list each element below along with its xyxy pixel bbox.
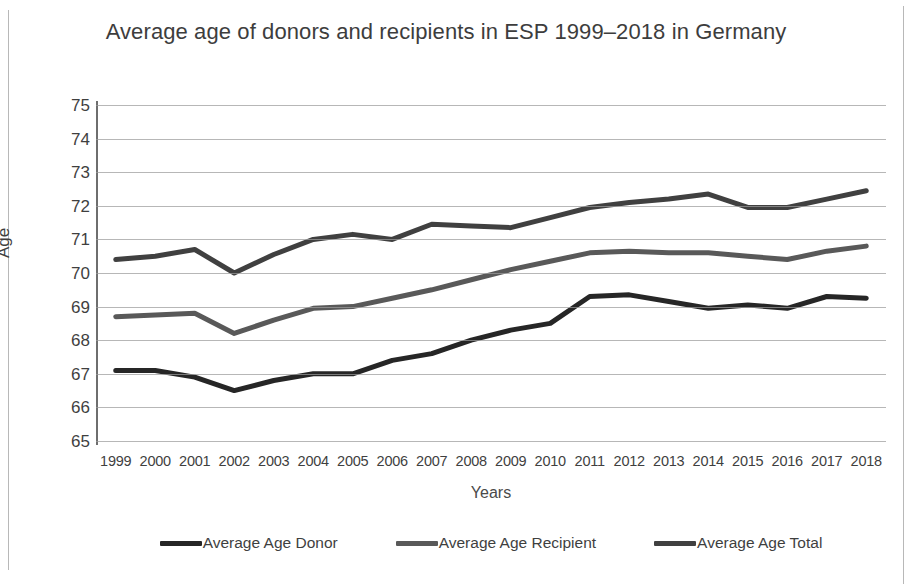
chart-legend: Average Age DonorAverage Age RecipientAv… — [96, 534, 886, 552]
x-tick-label: 2017 — [805, 452, 849, 471]
y-tick-label: 73 — [56, 164, 90, 181]
y-tick-label: 68 — [56, 332, 90, 349]
y-tick-label: 66 — [56, 399, 90, 416]
x-tick-label: 2015 — [726, 452, 770, 471]
gridline — [96, 273, 886, 274]
gridline — [96, 239, 886, 240]
x-tick-label: 2006 — [370, 452, 414, 471]
line-chart: Average age of donors and recipients in … — [0, 0, 918, 588]
gridline — [96, 340, 886, 341]
y-tick-label: 71 — [56, 231, 90, 248]
series-line — [116, 295, 867, 391]
legend-swatch-icon — [396, 541, 438, 546]
y-tick-label: 67 — [56, 366, 90, 383]
y-axis-title: Age — [0, 228, 14, 258]
y-tick-label: 75 — [56, 97, 90, 114]
gridline — [96, 206, 886, 207]
x-tick-label: 2013 — [647, 452, 691, 471]
gridline — [96, 172, 886, 173]
y-tick-label: 74 — [56, 131, 90, 148]
x-tick-label: 2003 — [252, 452, 296, 471]
y-tick-label: 69 — [56, 299, 90, 316]
x-axis-title: Years — [96, 484, 886, 502]
x-tick-label: 2016 — [765, 452, 809, 471]
y-tick-label: 65 — [56, 433, 90, 450]
series-line — [116, 191, 867, 273]
x-tick-label: 2002 — [212, 452, 256, 471]
x-tick-label: 2014 — [686, 452, 730, 471]
y-tick-label: 70 — [56, 265, 90, 282]
legend-label: Average Age Donor — [203, 534, 338, 552]
legend-item[interactable]: Average Age Total — [654, 534, 822, 552]
legend-label: Average Age Total — [697, 534, 822, 552]
x-tick-label: 2011 — [568, 452, 612, 471]
legend-swatch-icon — [160, 541, 202, 546]
series-line — [116, 246, 867, 333]
gridline — [96, 139, 886, 140]
x-axis-ticks: 1999200020012002200320042005200620072008… — [96, 452, 886, 474]
gridline — [96, 374, 886, 375]
gridline — [96, 441, 886, 442]
x-tick-label: 2004 — [291, 452, 335, 471]
x-tick-label: 2010 — [528, 452, 572, 471]
legend-item[interactable]: Average Age Donor — [160, 534, 338, 552]
x-tick-label: 2009 — [489, 452, 533, 471]
x-tick-label: 1999 — [94, 452, 138, 471]
y-tick-label: 72 — [56, 198, 90, 215]
chart-title: Average age of donors and recipients in … — [96, 16, 796, 47]
x-tick-label: 2012 — [607, 452, 651, 471]
legend-label: Average Age Recipient — [439, 534, 596, 552]
y-axis-ticks: 7574737271706968676665 — [52, 105, 90, 441]
x-tick-label: 2007 — [410, 452, 454, 471]
legend-swatch-icon — [654, 541, 696, 546]
gridline — [96, 407, 886, 408]
gridline — [96, 105, 886, 106]
plot-area — [96, 105, 886, 441]
x-tick-label: 2018 — [844, 452, 888, 471]
gridline — [96, 307, 886, 308]
x-tick-label: 2008 — [449, 452, 493, 471]
x-tick-label: 2001 — [173, 452, 217, 471]
x-tick-label: 2000 — [133, 452, 177, 471]
x-tick-label: 2005 — [331, 452, 375, 471]
legend-item[interactable]: Average Age Recipient — [396, 534, 596, 552]
